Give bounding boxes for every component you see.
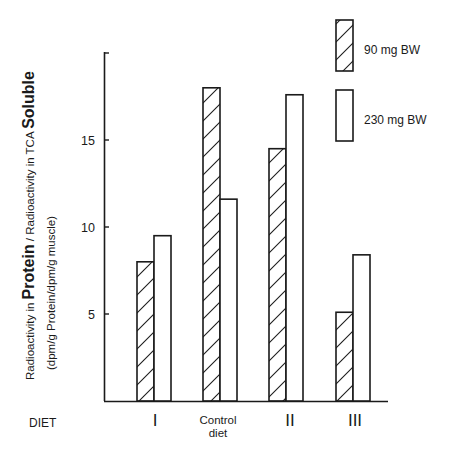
bar-230mg	[154, 236, 171, 401]
bar-230mg	[286, 95, 303, 401]
y-tick-label: 10	[81, 221, 95, 235]
x-tick-label: I	[153, 411, 158, 430]
y-axis-label-part: / Radioactivity in TCA	[24, 129, 36, 244]
legend-item: 90 mg BW	[336, 20, 421, 71]
legend: 90 mg BW230 mg BW	[336, 20, 427, 141]
x-tick-label: III	[348, 411, 362, 430]
bar-chart: Radioactivity in Protein / Radioactivity…	[0, 0, 454, 459]
bar-230mg	[220, 199, 237, 401]
y-axis-label: Radioactivity in Protein / Radioactivity…	[20, 71, 57, 380]
bar-90mg	[203, 88, 220, 401]
bars	[137, 88, 370, 401]
bar-230mg	[353, 255, 370, 401]
legend-label: 90 mg BW	[364, 43, 421, 57]
x-axis-label: DIET	[29, 416, 57, 430]
bar-90mg	[137, 262, 154, 401]
legend-item: 230 mg BW	[336, 90, 427, 141]
y-tick-label: 5	[88, 308, 95, 322]
y-axis-label-line1: Radioactivity in Protein / Radioactivity…	[20, 71, 37, 380]
bar-group	[137, 236, 171, 401]
x-tick-label: Control	[199, 414, 236, 426]
bar-90mg	[336, 312, 353, 401]
y-axis-label-part: Protein	[20, 244, 37, 299]
y-tick-label: 15	[81, 134, 95, 148]
x-tick-label: II	[285, 411, 294, 430]
bar-group	[203, 88, 237, 401]
bar-group	[336, 255, 370, 401]
legend-swatch-hatched	[336, 20, 353, 71]
y-axis-label-part: Radioactivity in	[24, 299, 36, 380]
y-axis-label-part: Soluble	[20, 71, 37, 129]
x-tick-label: diet	[209, 427, 228, 439]
x-tick-labels: IControldietIIIII	[153, 411, 362, 439]
legend-swatch-open	[336, 90, 353, 141]
legend-label: 230 mg BW	[364, 113, 427, 127]
bar-group	[269, 95, 303, 401]
y-axis-label-line2: (dpm/g Protein/dpm/g muscle)	[45, 216, 57, 370]
bar-90mg	[269, 149, 286, 401]
